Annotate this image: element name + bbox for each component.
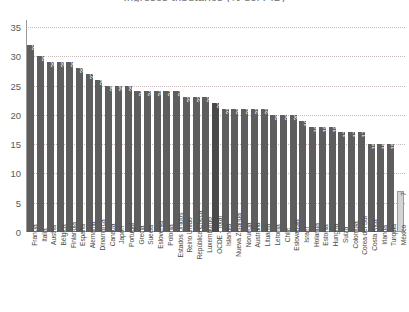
- bar[interactable]: 24: [173, 91, 180, 232]
- bar[interactable]: 32: [27, 45, 34, 232]
- category-cell: Israel: [298, 234, 308, 312]
- bar-cell: 7: [395, 27, 405, 232]
- bar[interactable]: 24: [134, 91, 141, 232]
- bar[interactable]: 24: [154, 91, 161, 232]
- bar-cell: 27: [84, 27, 94, 232]
- bar-cell: 24: [133, 27, 143, 232]
- bar[interactable]: 25: [105, 86, 112, 232]
- category-cell: Islandia: [220, 234, 230, 312]
- bar-cell: 18: [308, 27, 318, 232]
- category-cell: Francia: [26, 234, 36, 312]
- bar-cell: 25: [104, 27, 114, 232]
- y-axis-tick-label: 10: [10, 168, 21, 179]
- y-axis-tick-label: 15: [10, 139, 21, 150]
- bars-container: 3230292929282726252525242424242423232322…: [26, 27, 405, 232]
- bar[interactable]: 18: [309, 127, 316, 232]
- category-cell: Reino Unido: [182, 234, 192, 312]
- category-cell: Colombia: [347, 234, 357, 312]
- bar[interactable]: 23: [202, 97, 209, 232]
- y-axis-tick-label: 20: [10, 109, 21, 120]
- bar[interactable]: 21: [261, 109, 268, 232]
- category-cell: Australia: [250, 234, 260, 312]
- category-cell: Portugal: [123, 234, 133, 312]
- category-cell: Finlandia: [65, 234, 75, 312]
- category-cell: Holanda: [308, 234, 318, 312]
- bar-cell: 23: [201, 27, 211, 232]
- bar[interactable]: 17: [348, 132, 355, 232]
- bar-cell: 17: [337, 27, 347, 232]
- bar-cell: 21: [230, 27, 240, 232]
- bar[interactable]: 28: [76, 68, 83, 232]
- category-cell: Suecia: [143, 234, 153, 312]
- bar[interactable]: 26: [95, 80, 102, 232]
- bar[interactable]: 25: [115, 86, 122, 232]
- category-cell: Alemania: [84, 234, 94, 312]
- category-cell: Dinamarca: [94, 234, 104, 312]
- bar[interactable]: 29: [47, 62, 54, 232]
- category-cell: Bélgica: [55, 234, 65, 312]
- bar[interactable]: 27: [86, 74, 93, 232]
- bar-cell: 17: [356, 27, 366, 232]
- bar-cell: 18: [318, 27, 328, 232]
- bar[interactable]: 20: [290, 115, 297, 232]
- category-cell: Letonia: [269, 234, 279, 312]
- bar[interactable]: 24: [144, 91, 151, 232]
- category-cell: Polonia: [162, 234, 172, 312]
- bar-cell: 30: [36, 27, 46, 232]
- category-cell: Eslovenia: [152, 234, 162, 312]
- category-cell: Hungría: [327, 234, 337, 312]
- bar-cell: 29: [65, 27, 75, 232]
- category-cell: Italia: [36, 234, 46, 312]
- bar[interactable]: 21: [241, 109, 248, 232]
- bar[interactable]: 15: [377, 144, 384, 232]
- bar[interactable]: 30: [37, 56, 44, 232]
- bar-cell: 18: [327, 27, 337, 232]
- bar-cell: 15: [376, 27, 386, 232]
- category-cell: España: [75, 234, 85, 312]
- bar[interactable]: 25: [125, 86, 132, 232]
- bar-cell: 24: [172, 27, 182, 232]
- bar-cell: 23: [182, 27, 192, 232]
- category-cell: Estonia: [318, 234, 328, 312]
- bar-cell: 24: [143, 27, 153, 232]
- bar-cell: 32: [26, 27, 36, 232]
- bar[interactable]: 29: [66, 62, 73, 232]
- category-cell: Noruega: [240, 234, 250, 312]
- bar[interactable]: 21: [251, 109, 258, 232]
- category-cell: Chile: [279, 234, 289, 312]
- bar[interactable]: 15: [387, 144, 394, 232]
- category-cell: Irlanda: [376, 234, 386, 312]
- category-label: México: [400, 225, 407, 245]
- chart-title: Ingresos tributarios (% del PIB): [0, 0, 409, 2]
- bar[interactable]: 29: [57, 62, 64, 232]
- bar-cell: 15: [366, 27, 376, 232]
- bar-cell: 21: [259, 27, 269, 232]
- category-cell: Grecia: [133, 234, 143, 312]
- bar[interactable]: 22: [212, 103, 219, 232]
- bar-cell: 21: [220, 27, 230, 232]
- category-cell: República Checa: [191, 234, 201, 312]
- bar[interactable]: 18: [319, 127, 326, 232]
- bar[interactable]: 20: [280, 115, 287, 232]
- bar-cell: 25: [113, 27, 123, 232]
- bar[interactable]: 24: [163, 91, 170, 232]
- bar-cell: 28: [75, 27, 85, 232]
- category-cell: Canadá: [104, 234, 114, 312]
- category-cell: Costa Rica: [366, 234, 376, 312]
- bar-cell: 21: [240, 27, 250, 232]
- category-axis: FranciaItaliaAustriaBélgicaFinlandiaEspa…: [26, 234, 405, 312]
- bar-cell: 21: [250, 27, 260, 232]
- bar-cell: 17: [347, 27, 357, 232]
- bar-cell: 23: [191, 27, 201, 232]
- category-cell: Luxemburgo: [201, 234, 211, 312]
- category-cell: Nueva Zelanda: [230, 234, 240, 312]
- bar-cell: 15: [386, 27, 396, 232]
- bar[interactable]: 20: [270, 115, 277, 232]
- bar[interactable]: 21: [222, 109, 229, 232]
- bar[interactable]: 18: [329, 127, 336, 232]
- y-axis: 05101520253035: [0, 20, 24, 235]
- bar-cell: 20: [279, 27, 289, 232]
- y-axis-tick-label: 5: [16, 197, 21, 208]
- bar[interactable]: 17: [338, 132, 345, 232]
- bar[interactable]: 19: [299, 121, 306, 232]
